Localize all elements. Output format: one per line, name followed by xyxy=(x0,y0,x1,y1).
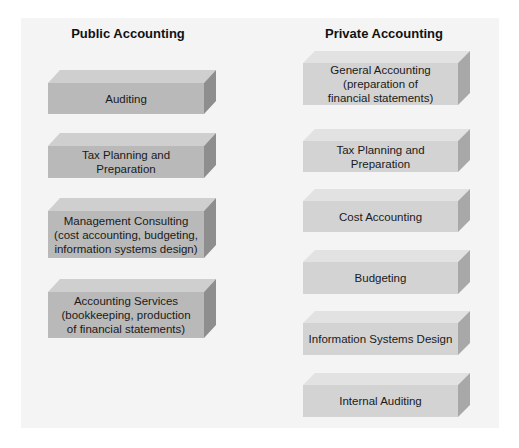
public-accounting-title: Public Accounting xyxy=(28,26,228,41)
public-block-2: Tax Planning and Preparation xyxy=(48,133,216,178)
block-label: General Accounting(preparation offinanci… xyxy=(307,63,454,105)
block-label: Internal Auditing xyxy=(307,385,454,417)
public-block-1: Auditing xyxy=(48,70,216,114)
private-accounting-title: Private Accounting xyxy=(284,26,484,41)
block-label: Cost Accounting xyxy=(307,201,454,232)
block-label: Tax Planning andPreparation xyxy=(307,141,454,172)
private-block-5: Information Systems Design xyxy=(303,311,470,355)
block-label: Auditing xyxy=(52,83,200,114)
private-block-1: General Accounting(preparation offinanci… xyxy=(303,51,470,105)
private-block-3: Cost Accounting xyxy=(303,189,470,232)
private-block-4: Budgeting xyxy=(303,250,470,294)
private-block-6: Internal Auditing xyxy=(303,373,470,417)
block-label: Tax Planning and Preparation xyxy=(52,146,200,178)
public-block-4: Accounting Services(bookkeeping, product… xyxy=(48,279,216,338)
block-label: Accounting Services(bookkeeping, product… xyxy=(52,292,200,338)
private-block-2: Tax Planning andPreparation xyxy=(303,129,470,172)
block-label: Management Consulting(cost accounting, b… xyxy=(52,211,200,258)
public-block-3: Management Consulting(cost accounting, b… xyxy=(48,198,216,258)
block-label: Budgeting xyxy=(307,262,454,294)
block-label: Information Systems Design xyxy=(307,323,454,355)
